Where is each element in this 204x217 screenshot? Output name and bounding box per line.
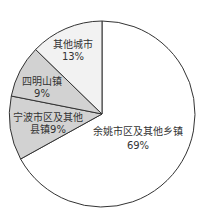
pie-chart: 余姚市区及其他乡镇 69% 宁波市区及其他 县镇9% 四明山镇 9% 其他城市 … — [0, 0, 204, 217]
value-other-cities: 13% — [62, 51, 84, 62]
value-siming: 9% — [34, 88, 50, 99]
label-yuyao: 余姚市区及其他乡镇 — [93, 125, 183, 137]
label-siming: 四明山镇 — [22, 75, 62, 87]
label-other-cities: 其他城市 — [53, 38, 93, 50]
label-ningbo: 宁波市区及其他 — [13, 111, 83, 123]
value-ningbo: 县镇9% — [30, 123, 66, 135]
value-yuyao: 69% — [127, 140, 149, 151]
